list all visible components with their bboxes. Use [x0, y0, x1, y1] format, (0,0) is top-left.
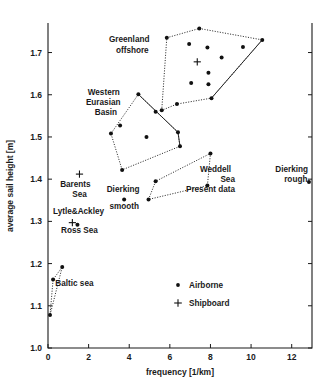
- annotation-label: Sea: [220, 175, 235, 184]
- annotation-label: Dierking: [275, 165, 308, 174]
- annotation-label: Basin: [95, 108, 117, 117]
- y-tick-label: 1.1: [30, 301, 42, 311]
- annotation-label: Present data: [186, 185, 236, 194]
- x-axis-title: frequency [1/km]: [146, 367, 214, 377]
- airborne-data-point: [189, 81, 193, 85]
- annotation-label: Lytle&Ackley: [53, 207, 105, 216]
- airborne-data-point: [176, 130, 180, 134]
- y-axis-ticks: 1.01.11.21.31.41.51.61.7: [30, 48, 312, 353]
- annotation-label: Baltic sea: [55, 279, 94, 288]
- airborne-data-point: [307, 180, 311, 184]
- chart-annotations: GreenlandoffshoreWesternEurasianBasinWed…: [53, 35, 308, 288]
- airborne-data-point: [187, 42, 191, 46]
- annotation-label: Barents: [60, 180, 91, 189]
- airborne-data-point: [136, 92, 140, 96]
- shipboard-data-point: [69, 219, 76, 226]
- x-axis-ticks: 024681012: [46, 344, 297, 362]
- cluster-hull: [111, 94, 180, 170]
- x-tick-label: 12: [287, 352, 297, 362]
- x-tick-label: 8: [208, 352, 213, 362]
- legend-shipboard-label: Shipboard: [189, 299, 229, 308]
- y-axis-title: average sail height [m]: [5, 140, 15, 232]
- annotation-label: rough: [284, 175, 307, 184]
- airborne-data-point: [206, 71, 210, 75]
- airborne-data-point: [208, 151, 212, 155]
- y-tick-label: 1.3: [30, 216, 42, 226]
- y-tick-label: 1.7: [30, 48, 42, 58]
- x-tick-label: 4: [127, 352, 132, 362]
- x-tick-label: 6: [167, 352, 172, 362]
- shipboard-data-point: [76, 171, 83, 178]
- airborne-data-point: [120, 168, 124, 172]
- airborne-data-point: [206, 82, 210, 86]
- airborne-data-point: [205, 45, 209, 49]
- annotation-label: Ross Sea: [61, 226, 98, 235]
- legend-airborne-marker-icon: [176, 283, 180, 287]
- annotation-label: Greenland: [109, 35, 150, 44]
- annotation-label: Sea: [72, 190, 87, 199]
- annotation-label: Dierking: [107, 185, 140, 194]
- x-tick-label: 2: [86, 352, 91, 362]
- chart-figure: 024681012 1.01.11.21.31.41.51.61.7 frequ…: [0, 0, 331, 388]
- annotation-label: Eurasian: [86, 98, 121, 107]
- scatter-plot: 024681012 1.01.11.21.31.41.51.61.7 frequ…: [0, 0, 331, 388]
- airborne-data-point: [209, 96, 213, 100]
- annotation-label: Weddell: [200, 165, 231, 174]
- legend-shipboard-marker-icon: [174, 299, 182, 307]
- y-tick-label: 1.2: [30, 259, 42, 269]
- y-tick-label: 1.5: [30, 132, 42, 142]
- airborne-data-point: [241, 45, 245, 49]
- airborne-data-point: [260, 38, 264, 42]
- x-tick-label: 0: [46, 352, 51, 362]
- cluster-hull-solid-edge: [138, 94, 180, 146]
- y-tick-label: 1.6: [30, 90, 42, 100]
- airborne-data-point: [178, 144, 182, 148]
- airborne-data-point: [220, 56, 224, 60]
- data-points: [48, 26, 311, 317]
- airborne-data-point: [175, 102, 179, 106]
- airborne-data-point: [118, 124, 122, 128]
- x-tick-label: 10: [246, 352, 256, 362]
- cluster-hull-solid-edge: [211, 40, 262, 98]
- cluster-hull: [50, 267, 62, 315]
- airborne-data-point: [197, 26, 201, 30]
- airborne-data-point: [154, 110, 158, 114]
- airborne-data-point: [109, 132, 113, 136]
- airborne-data-point: [154, 179, 158, 183]
- airborne-data-point: [144, 135, 148, 139]
- airborne-data-point: [60, 265, 64, 269]
- y-tick-label: 1.4: [30, 174, 42, 184]
- airborne-data-point: [147, 197, 151, 201]
- annotation-label: Western: [88, 88, 120, 97]
- annotation-label: offshore: [116, 46, 149, 55]
- airborne-data-point: [165, 36, 169, 40]
- y-tick-label: 1.0: [30, 343, 42, 353]
- airborne-data-point: [48, 313, 52, 317]
- shipboard-data-point: [194, 58, 201, 65]
- legend-airborne-label: Airborne: [189, 281, 224, 290]
- airborne-data-point: [160, 108, 164, 112]
- chart-legend: Airborne Shipboard: [174, 281, 229, 308]
- annotation-label: smooth: [109, 202, 139, 211]
